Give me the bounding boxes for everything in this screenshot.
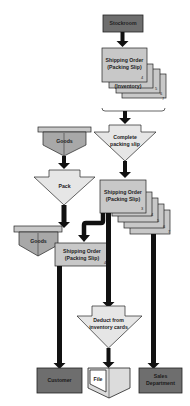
- sales-line1: Sales: [139, 373, 182, 379]
- deduct-line1: Deduct from: [86, 317, 131, 323]
- customer-label: Customer: [37, 377, 82, 383]
- flowchart-canvas: [0, 0, 190, 406]
- order-top-line2: (Packing Slip): [102, 64, 147, 70]
- inventory-label: (Inventory): [109, 83, 147, 89]
- arrow-order-to-left-order: [78, 213, 103, 242]
- arrow-complete-to-order: [119, 161, 131, 178]
- bracket: [102, 108, 165, 111]
- pack-label: Pack: [49, 183, 80, 189]
- order-top-copy-4: 4: [141, 76, 143, 80]
- complete-line2: packing slip: [104, 141, 146, 147]
- order-mid-copy-7: 7: [168, 230, 170, 234]
- order-mid-copy-3: 3: [141, 207, 143, 211]
- order-mid-copy-4: 4: [151, 213, 153, 217]
- complete-line1: Complete: [104, 134, 146, 140]
- order-mid-copy-6: 6: [163, 225, 165, 229]
- order-mid-copy-5: 5: [157, 219, 159, 223]
- arrow-pack-to-goods: [58, 205, 70, 228]
- order-mid-line1: Shipping Order: [100, 189, 146, 195]
- stockroom-label: Stockroom: [103, 20, 143, 26]
- arrow-deduct-to-file: [103, 348, 115, 368]
- order-left-line1: Shipping Order: [55, 248, 109, 254]
- goods-bottom-label: Goods: [19, 238, 58, 244]
- file-label: File: [90, 376, 106, 382]
- order-left-copy: 4: [104, 261, 106, 265]
- file-shape: [88, 368, 130, 398]
- order-top-line1: Shipping Order: [102, 57, 147, 63]
- order-left-line2: (Packing Slip): [55, 255, 109, 261]
- order-mid-line2: (Packing Slip): [100, 196, 146, 202]
- arrow-to-customer: [54, 266, 66, 369]
- arrow-stockroom-to-order: [117, 32, 129, 47]
- arrow-order-to-sales: [148, 234, 160, 369]
- order-top-copy-7: 7: [162, 97, 164, 101]
- deduct-line2: inventory cards: [86, 324, 131, 330]
- goods-top-label: Goods: [43, 138, 86, 144]
- sales-line2: Department: [139, 380, 182, 386]
- arrow-goods-to-pack: [58, 156, 70, 169]
- order-top-copy-5: 5: [155, 87, 157, 91]
- arrow-order-to-complete: [119, 111, 131, 124]
